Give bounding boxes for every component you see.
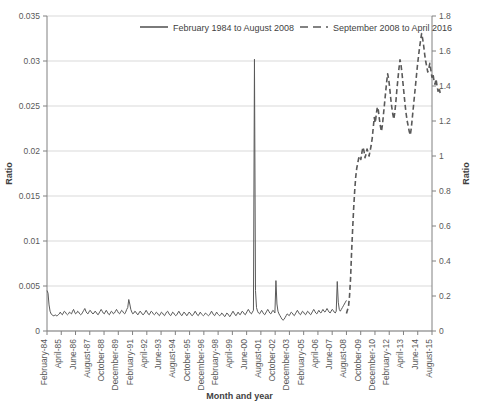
xtick-label-4: October-88 [96, 339, 106, 382]
ytick-label-right-9: 1.8 [439, 11, 451, 21]
ytick-label-right-8: 1.6 [439, 46, 451, 56]
xtick-label-13: April-99 [224, 339, 234, 369]
ytick-label-right-7: 1.4 [439, 81, 451, 91]
xtick-label-24: February-12 [381, 339, 391, 386]
xtick-label-22: October-09 [353, 339, 363, 382]
xtick-label-17: December-03 [281, 339, 291, 391]
ratio-line-chart: 00.0050.010.0150.020.0250.030.03500.20.4… [0, 0, 478, 407]
ytick-label-left-4: 0.02 [23, 146, 40, 156]
xtick-label-1: April-85 [53, 339, 63, 369]
xtick-label-15: August-01 [253, 339, 263, 378]
ytick-label-right-6: 1.2 [439, 116, 451, 126]
ytick-label-right-0: 0 [439, 326, 444, 336]
xtick-label-5: December-89 [110, 339, 120, 391]
xtick-label-27: August-15 [424, 339, 434, 378]
ytick-label-right-3: 0.6 [439, 221, 451, 231]
ytick-label-left-5: 0.025 [19, 101, 41, 111]
y-axis-title-right: Ratio [461, 162, 471, 185]
xtick-label-20: June-07 [324, 339, 334, 370]
ytick-label-left-3: 0.015 [19, 191, 41, 201]
xtick-label-2: June-86 [68, 339, 78, 370]
ytick-label-left-1: 0.005 [19, 281, 41, 291]
legend-label-series2: September 2008 to April 2016 [333, 23, 452, 33]
xtick-label-23: December-10 [367, 339, 377, 391]
ytick-label-right-2: 0.4 [439, 256, 451, 266]
ytick-label-right-4: 0.8 [439, 186, 451, 196]
xtick-label-25: April-13 [395, 339, 405, 369]
xtick-label-8: June-93 [153, 339, 163, 370]
xtick-label-0: February-84 [39, 339, 49, 386]
ytick-label-right-1: 0.2 [439, 291, 451, 301]
y-axis-title-left: Ratio [4, 162, 14, 185]
chart-container: 00.0050.010.0150.020.0250.030.03500.20.4… [0, 0, 478, 407]
xtick-label-21: August-08 [338, 339, 348, 378]
xtick-label-7: April-92 [139, 339, 149, 369]
xtick-label-12: February-98 [210, 339, 220, 386]
xtick-label-3: August-87 [82, 339, 92, 378]
xtick-label-10: October-95 [182, 339, 192, 382]
xtick-label-11: December-96 [196, 339, 206, 391]
xtick-label-16: October-02 [267, 339, 277, 382]
xtick-label-18: February-05 [296, 339, 306, 386]
xtick-label-14: June-00 [239, 339, 249, 370]
legend-label-series1: February 1984 to August 2008 [173, 23, 294, 33]
ytick-label-right-5: 1 [439, 151, 444, 161]
ytick-label-left-0: 0 [35, 326, 40, 336]
xtick-label-6: February-91 [125, 339, 135, 386]
xtick-label-19: April-06 [310, 339, 320, 369]
ytick-label-left-6: 0.03 [23, 56, 40, 66]
series-line-1 [47, 59, 346, 320]
xtick-label-9: August-94 [167, 339, 177, 378]
ytick-label-left-7: 0.035 [19, 11, 41, 21]
x-axis-title: Month and year [206, 391, 273, 401]
series-line-2 [346, 34, 440, 314]
xtick-label-26: June-14 [410, 339, 420, 370]
ytick-label-left-2: 0.01 [23, 236, 40, 246]
